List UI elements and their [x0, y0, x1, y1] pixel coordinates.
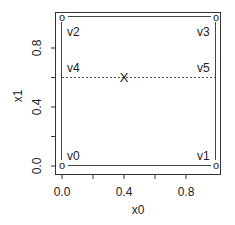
x-tick-label: 0.0: [54, 185, 71, 199]
vertex-markers: o o o o: [59, 11, 219, 171]
chart-canvas: o o o o v2 v3 v4 v5 v0 v1 X 0.0 0.4 0.8 …: [0, 0, 235, 225]
vertex-marker-v2: o: [59, 11, 65, 23]
point-marker-x: X: [120, 70, 129, 85]
vertex-label-v2: v2: [67, 25, 80, 39]
vertex-label-v4: v4: [67, 61, 80, 75]
x-axis-label: x0: [132, 203, 145, 217]
cell-edges: [62, 17, 216, 166]
y-tick-label: 0.0: [30, 157, 44, 174]
x-tick-label: 0.8: [178, 185, 195, 199]
y-axis-label: x1: [11, 89, 25, 102]
vertex-marker-v0: o: [59, 159, 65, 171]
y-axis: [51, 48, 56, 166]
vertex-marker-v3: o: [213, 11, 219, 23]
vertex-marker-v1: o: [213, 159, 219, 171]
plot-frame: [56, 13, 221, 175]
vertex-label-v3: v3: [197, 25, 210, 39]
y-tick-label: 0.4: [30, 98, 44, 115]
x-axis: [62, 175, 186, 180]
x-tick-label: 0.4: [116, 185, 133, 199]
vertex-label-v5: v5: [197, 61, 210, 75]
vertex-label-v0: v0: [67, 149, 80, 163]
y-tick-label: 0.8: [30, 39, 44, 56]
vertex-label-v1: v1: [197, 149, 210, 163]
